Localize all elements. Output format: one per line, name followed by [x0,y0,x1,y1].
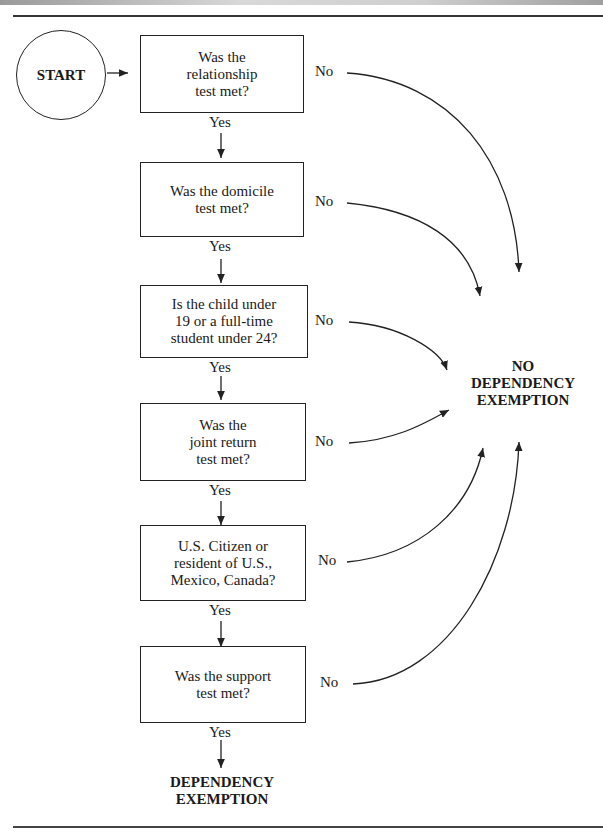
bottom-rule [13,826,603,828]
dependency-exemption-outcome: DEPENDENCY EXEMPTION [160,774,284,808]
no-label: No [318,552,336,569]
question-citizenship: U.S. Citizen or resident of U.S., Mexico… [140,525,306,601]
question-domicile: Was the domicile test met? [140,162,304,237]
question-text: Was the relationship test met? [187,49,258,100]
yes-label: Yes [209,724,231,741]
no-dependency-exemption-outcome: NO DEPENDENCY EXEMPTION [458,358,588,409]
yes-label: Yes [209,359,231,376]
yes-label: Yes [209,482,231,499]
start-label: START [37,67,85,84]
question-text: U.S. Citizen or resident of U.S., Mexico… [171,538,276,589]
question-text: Was the domicile test met? [170,183,274,217]
question-joint-return: Was the joint return test met? [140,403,306,481]
question-support: Was the support test met? [140,646,306,723]
no-label: No [315,312,333,329]
question-text: Was the joint return test met? [189,417,256,468]
yes-label: Yes [209,238,231,255]
no-label: No [320,674,338,691]
no-label: No [315,433,333,450]
start-node: START [16,30,106,120]
yes-label: Yes [209,114,231,131]
question-text: Is the child under 19 or a full-time stu… [171,296,278,347]
question-relationship: Was the relationship test met? [140,35,304,113]
no-label: No [315,63,333,80]
no-label: No [315,193,333,210]
question-age: Is the child under 19 or a full-time stu… [140,285,308,358]
question-text: Was the support test met? [175,668,271,702]
yes-label: Yes [209,602,231,619]
